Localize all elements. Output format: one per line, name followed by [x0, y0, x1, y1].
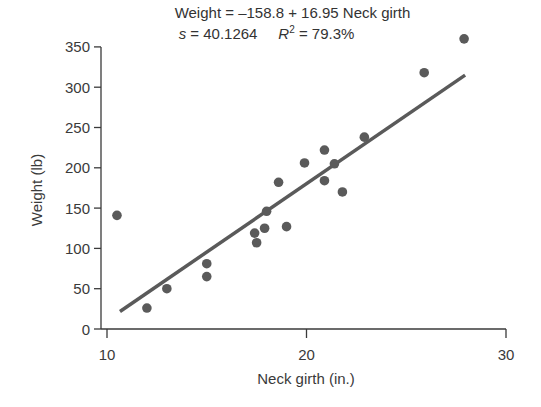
x-axis-label: Neck girth (in.)	[257, 370, 355, 387]
data-point	[262, 207, 272, 217]
data-point	[459, 34, 469, 44]
y-axis-label: Weight (lb)	[28, 154, 45, 226]
data-point	[274, 178, 284, 188]
data-point	[250, 228, 260, 238]
y-tick-label: 100	[65, 240, 90, 257]
y-tick-label: 200	[65, 159, 90, 176]
y-tick-label: 300	[65, 79, 90, 96]
y-tick-label: 50	[73, 280, 90, 297]
data-point	[112, 211, 122, 221]
data-point	[338, 187, 348, 197]
y-tick-label: 150	[65, 200, 90, 217]
x-tick-label: 30	[498, 346, 515, 363]
data-point	[320, 145, 330, 155]
data-point	[360, 132, 370, 142]
data-point	[142, 303, 152, 313]
data-point	[282, 222, 292, 232]
y-tick-label: 0	[82, 321, 90, 338]
data-points	[112, 34, 469, 313]
data-point	[202, 259, 212, 269]
data-point	[300, 158, 310, 168]
data-point	[252, 238, 262, 248]
data-point	[320, 176, 330, 186]
data-point	[419, 68, 429, 78]
regression-line	[120, 75, 465, 311]
data-point	[330, 159, 340, 169]
fitted-line	[120, 75, 465, 311]
x-tick-label: 10	[99, 346, 116, 363]
data-point	[202, 272, 212, 282]
x-tick-label: 20	[298, 346, 315, 363]
data-point	[162, 284, 172, 294]
y-tick-label: 250	[65, 119, 90, 136]
scatter-chart: 050100150200250300350102030 Neck girth (…	[0, 0, 541, 407]
y-tick-label: 350	[65, 38, 90, 55]
data-point	[260, 223, 270, 233]
